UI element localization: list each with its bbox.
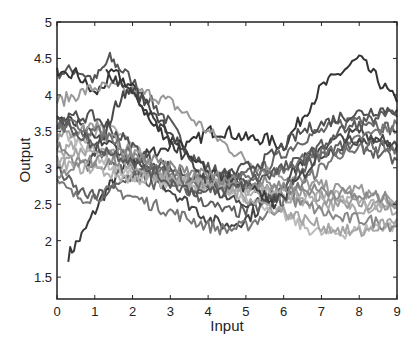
y-tick-label: 2.5 bbox=[34, 197, 52, 212]
x-tick-label: 9 bbox=[393, 304, 400, 319]
y-tick-label: 2 bbox=[45, 234, 52, 249]
y-tick-label: 4.5 bbox=[34, 51, 52, 66]
x-tick-label: 2 bbox=[129, 304, 136, 319]
y-tick-label: 5 bbox=[45, 15, 52, 30]
y-tick-label: 3.5 bbox=[34, 124, 52, 139]
x-axis-label: Input bbox=[210, 317, 244, 334]
x-tick-label: 3 bbox=[167, 304, 174, 319]
data-lines bbox=[57, 53, 397, 262]
y-tick-label: 4 bbox=[45, 88, 52, 103]
y-tick-label: 3 bbox=[45, 161, 52, 176]
y-tick-labels: 1.522.533.544.55 bbox=[34, 15, 52, 285]
x-tick-label: 6 bbox=[280, 304, 287, 319]
x-tick-label: 1 bbox=[91, 304, 98, 319]
x-tick-label: 8 bbox=[356, 304, 363, 319]
line-chart: 0123456789 1.522.533.544.55 Input Output bbox=[0, 0, 419, 347]
x-tick-label: 0 bbox=[53, 304, 60, 319]
y-tick-label: 1.5 bbox=[34, 270, 52, 285]
chart-svg: 0123456789 1.522.533.544.55 Input Output bbox=[0, 0, 419, 347]
y-axis-label: Output bbox=[16, 137, 33, 183]
x-tick-label: 7 bbox=[318, 304, 325, 319]
